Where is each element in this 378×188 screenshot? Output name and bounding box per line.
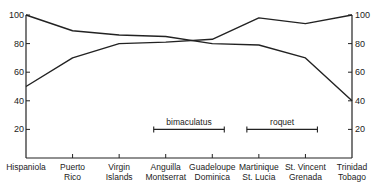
x-tick-label: Martinique — [239, 162, 279, 172]
x-tick-label: St. Vincent — [285, 162, 327, 172]
right-y-tick-label: 60 — [355, 67, 365, 77]
left-y-tick-label: 80 — [14, 39, 24, 49]
right-y-tick-label: 100 — [355, 10, 370, 20]
right-y-tick-label: 40 — [355, 96, 365, 106]
x-tick-label: Guadeloupe — [189, 162, 236, 172]
range-label: roquet — [270, 117, 295, 127]
x-tick-label-line2: Dominica — [195, 172, 231, 182]
x-tick-label-line2: Tobago — [338, 172, 366, 182]
right-y-tick-label: 80 — [355, 39, 365, 49]
x-tick-label-line2: Islands — [106, 172, 133, 182]
x-tick-label-line2: Grenada — [289, 172, 322, 182]
x-tick-label-line2: St. Lucia — [242, 172, 275, 182]
range-label: bimaculatus — [166, 117, 211, 127]
x-tick-label-line2: Montserrat — [145, 172, 186, 182]
x-tick-label-line2: Rico — [64, 172, 81, 182]
left-y-tick-label: 100 — [9, 10, 24, 20]
left-y-tick-label: 60 — [14, 67, 24, 77]
x-tick-label: Hispaniola — [6, 162, 46, 172]
x-tick-label: Trinidad — [337, 162, 368, 172]
right-y-tick-label: 20 — [355, 124, 365, 134]
line-chart: 2020404060608080100100 HispaniolaPuertoR… — [0, 0, 378, 188]
x-tick-label: Puerto — [60, 162, 85, 172]
left-y-tick-label: 40 — [14, 96, 24, 106]
left-y-tick-label: 20 — [14, 124, 24, 134]
x-tick-label: Anguilla — [151, 162, 182, 172]
x-tick-label: Virgin — [108, 162, 130, 172]
series-increasing-line — [26, 15, 352, 87]
